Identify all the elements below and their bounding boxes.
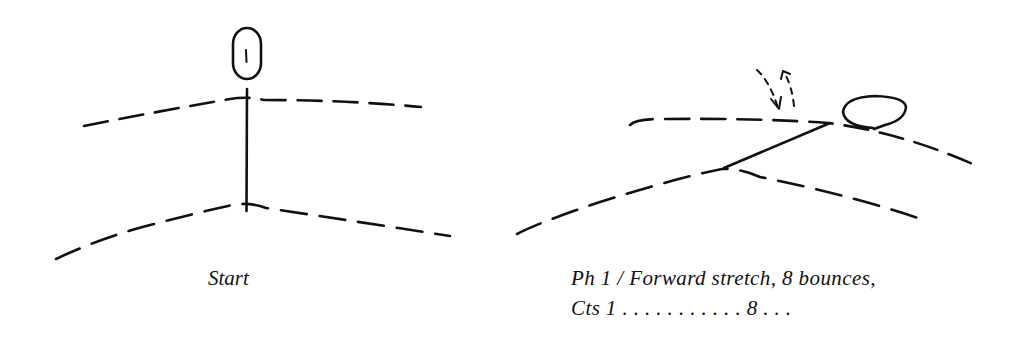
- start-figure: [56, 28, 450, 259]
- upper-dashed-arc: [84, 98, 421, 126]
- head-icon: [843, 96, 906, 129]
- body-line: [724, 123, 830, 168]
- start-caption: Start: [208, 266, 249, 291]
- phase1-caption-counts: Cts 1 . . . . . . . . . . . 8 . . .: [571, 296, 792, 321]
- lower-dashed-arc: [56, 204, 450, 259]
- phase1-caption-title: Ph 1 / Forward stretch, 8 bounces,: [571, 266, 876, 291]
- bounce-up-arrow-icon: [784, 72, 794, 106]
- lower-dashed-arc: [517, 169, 924, 234]
- phase1-figure: [517, 70, 975, 234]
- upper-dashed-arc: [630, 119, 975, 165]
- head-mark: [246, 50, 247, 62]
- diagram-canvas: [0, 0, 1030, 345]
- body-line: [247, 89, 248, 211]
- arrowhead-up-icon: [781, 71, 790, 79]
